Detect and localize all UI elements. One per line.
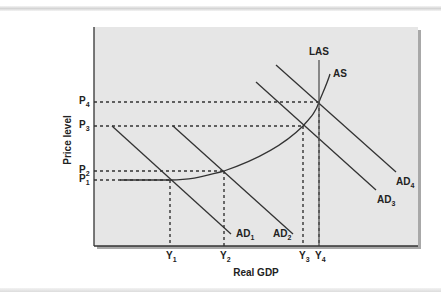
y-tick-p4: P4 [79,95,90,108]
x-tick-labels: Y1Y2Y3Y4 [166,250,326,263]
x-tick-y2: Y2 [220,250,231,263]
x-axis-title: Real GDP [233,267,279,278]
aggregate-demand-supply-chart: P4P3P2P1 Y1Y2Y3Y4 AD1AD2AD3AD4ASLAS Real… [0,0,441,292]
as-label: AS [333,68,347,79]
y-axis-title: Price level [62,115,73,165]
plot-area [94,27,418,246]
x-tick-y4: Y4 [315,250,326,263]
bottom-divider [0,288,441,292]
y-tick-labels: P4P3P2P1 [79,95,90,186]
las-label: LAS [309,46,329,57]
x-tick-y3: Y3 [299,250,310,263]
y-tick-p3: P3 [79,119,90,132]
x-tick-y1: Y1 [166,250,177,263]
